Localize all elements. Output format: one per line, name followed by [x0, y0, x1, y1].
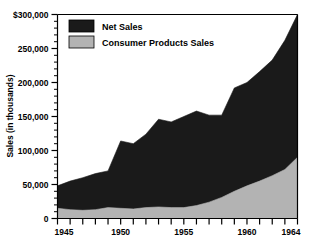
chart-container: 050,000100,000150,000200,000250,000$300,… [0, 0, 311, 247]
x-axis-tick-label: 1950 [111, 227, 130, 237]
y-axis-tick-label: 100,000 [18, 146, 49, 156]
y-axis-tick-label: 0 [44, 214, 49, 224]
y-axis-tick-label: 150,000 [18, 112, 49, 122]
legend-label-net-sales: Net Sales [102, 22, 143, 32]
y-axis-tick-label: 250,000 [18, 44, 49, 54]
y-axis-title: Sales (in thousands) [5, 74, 15, 157]
y-axis-tick-label: 50,000 [23, 180, 49, 190]
y-axis-tick-label: 200,000 [18, 78, 49, 88]
x-axis-tick-label: 1964 [282, 227, 301, 237]
area-chart: 050,000100,000150,000200,000250,000$300,… [0, 0, 311, 247]
legend-swatch-consumer-products-sales [69, 36, 94, 48]
legend-label-consumer-products-sales: Consumer Products Sales [102, 38, 214, 48]
x-axis-tick-label: 1955 [174, 227, 193, 237]
x-axis-tick-label: 1960 [238, 227, 257, 237]
x-axis-tick-label: 1945 [55, 227, 74, 237]
legend-swatch-net-sales [69, 20, 94, 32]
y-axis-tick-label: $300,000 [13, 10, 49, 20]
